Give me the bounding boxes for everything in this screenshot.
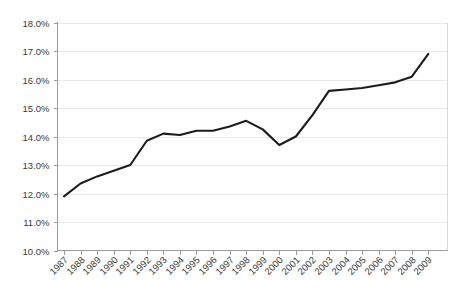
y-axis-tick-label: 16.0%: [23, 75, 50, 86]
y-axis-tick-label: 18.0%: [23, 18, 50, 29]
y-axis-tick-label: 10.0%: [23, 246, 50, 257]
data-series: [64, 54, 428, 197]
y-axis-tick-label: 13.0%: [23, 160, 50, 171]
y-axis-tick-label: 15.0%: [23, 103, 50, 114]
y-axis-tick-label: 11.0%: [23, 217, 50, 228]
x-axis-tick-label: 2009: [411, 254, 434, 277]
series-line: [64, 54, 428, 197]
y-axis-tick-label: 14.0%: [23, 132, 50, 143]
chart-container: 18.0%17.0%16.0%15.0%14.0%13.0%12.0%11.0%…: [0, 0, 460, 297]
y-axis-tick-label: 17.0%: [23, 46, 50, 57]
line-chart: 18.0%17.0%16.0%15.0%14.0%13.0%12.0%11.0%…: [0, 0, 460, 297]
y-axis-tick-label: 12.0%: [23, 189, 50, 200]
y-axis: 18.0%17.0%16.0%15.0%14.0%13.0%12.0%11.0%…: [23, 18, 58, 257]
x-axis: 1987198819891990199119921993199419951996…: [47, 251, 447, 277]
